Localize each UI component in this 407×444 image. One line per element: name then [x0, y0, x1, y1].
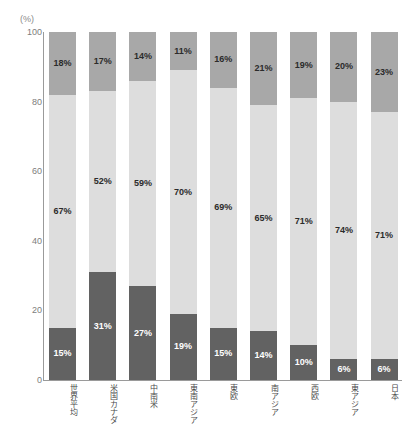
bar-group: 31%52%17% — [89, 32, 116, 380]
bar-value-label: 16% — [214, 55, 232, 64]
y-tick-label: 100 — [16, 27, 42, 37]
y-tick-mark — [51, 380, 55, 381]
bar-value-label: 19% — [295, 61, 313, 70]
y-tick-label: 60 — [16, 166, 42, 176]
category-label: 東南アジア — [170, 384, 197, 424]
bar-segment-top: 19% — [290, 32, 317, 98]
bar-value-label: 20% — [335, 62, 353, 71]
bar-segment-top: 16% — [210, 32, 237, 88]
bar-segment-middle: 71% — [371, 112, 398, 359]
stacked-bar-chart: (%) 100806040200 15%67%18%31%52%17%27%59… — [0, 0, 407, 444]
bar-value-label: 6% — [337, 365, 350, 374]
bar-value-label: 14% — [254, 351, 272, 360]
bar-group: 19%70%11% — [170, 32, 197, 380]
bar-value-label: 15% — [214, 349, 232, 358]
bar-segment-middle: 74% — [330, 102, 357, 360]
category-label: 西欧 — [290, 384, 317, 400]
bar-segment-middle: 70% — [170, 70, 197, 314]
bar-segment-bottom: 14% — [250, 331, 277, 380]
y-tick-label: 80 — [16, 97, 42, 107]
bar-value-label: 74% — [335, 226, 353, 235]
bar-group: 6%74%20% — [330, 32, 357, 380]
category-label: 中南米 — [129, 384, 156, 408]
bar-segment-bottom: 10% — [290, 345, 317, 380]
bar-segment-bottom: 6% — [330, 359, 357, 380]
bar-group: 6%71%23% — [371, 32, 398, 380]
bar-value-label: 70% — [174, 188, 192, 197]
bar-value-label: 27% — [134, 329, 152, 338]
bar-value-label: 23% — [375, 68, 393, 77]
category-label: 東アジア — [330, 384, 357, 416]
category-label: 東欧 — [210, 384, 237, 400]
bar-value-label: 19% — [174, 342, 192, 351]
bar-value-label: 65% — [254, 214, 272, 223]
bar-value-label: 17% — [94, 57, 112, 66]
bar-segment-top: 21% — [250, 32, 277, 105]
x-axis-line — [43, 380, 402, 381]
bar-value-label: 21% — [254, 64, 272, 73]
bar-segment-bottom: 19% — [170, 314, 197, 380]
bar-value-label: 14% — [134, 52, 152, 61]
bar-segment-bottom: 15% — [49, 328, 76, 380]
bar-value-label: 6% — [378, 365, 391, 374]
bar-value-label: 69% — [214, 203, 232, 212]
title-remnant — [118, 1, 258, 8]
bars-layer: 15%67%18%31%52%17%27%59%14%19%70%11%15%6… — [44, 32, 402, 380]
bar-segment-middle: 59% — [129, 81, 156, 286]
bar-segment-middle: 67% — [49, 95, 76, 328]
bar-value-label: 31% — [94, 322, 112, 331]
bar-value-label: 52% — [94, 177, 112, 186]
category-label: 日本 — [371, 384, 398, 400]
category-label: 米国カナダ — [89, 384, 116, 424]
bar-segment-top: 14% — [129, 32, 156, 81]
bar-group: 10%71%19% — [290, 32, 317, 380]
bar-group: 14%65%21% — [250, 32, 277, 380]
bar-value-label: 67% — [53, 207, 71, 216]
bar-segment-middle: 65% — [250, 105, 277, 331]
bar-segment-middle: 71% — [290, 98, 317, 345]
y-tick-label: 20 — [16, 305, 42, 315]
bar-segment-middle: 69% — [210, 88, 237, 328]
bar-segment-top: 11% — [170, 32, 197, 70]
bar-group: 27%59%14% — [129, 32, 156, 380]
bar-value-label: 18% — [53, 59, 71, 68]
category-labels: 世界平均米国カナダ中南米東南アジア東欧南アジア西欧東アジア日本 — [44, 384, 402, 444]
bar-group: 15%69%16% — [210, 32, 237, 380]
bar-value-label: 71% — [295, 217, 313, 226]
y-tick-label: 40 — [16, 236, 42, 246]
bar-segment-bottom: 15% — [210, 328, 237, 380]
y-axis-ticks: 100806040200 — [8, 0, 42, 444]
bar-segment-bottom: 27% — [129, 286, 156, 380]
bar-value-label: 11% — [174, 47, 192, 56]
bar-segment-bottom: 6% — [371, 359, 398, 380]
bar-value-label: 15% — [53, 349, 71, 358]
bar-segment-top: 20% — [330, 32, 357, 102]
bar-value-label: 10% — [295, 358, 313, 367]
category-label: 世界平均 — [49, 384, 76, 416]
bar-segment-middle: 52% — [89, 91, 116, 272]
bar-value-label: 59% — [134, 179, 152, 188]
bar-segment-bottom: 31% — [89, 272, 116, 380]
bar-value-label: 71% — [375, 231, 393, 240]
y-tick-label: 0 — [16, 375, 42, 385]
bar-group: 15%67%18% — [49, 32, 76, 380]
bar-segment-top: 17% — [89, 32, 116, 91]
bar-segment-top: 23% — [371, 32, 398, 112]
category-label: 南アジア — [250, 384, 277, 416]
bar-segment-top: 18% — [49, 32, 76, 95]
